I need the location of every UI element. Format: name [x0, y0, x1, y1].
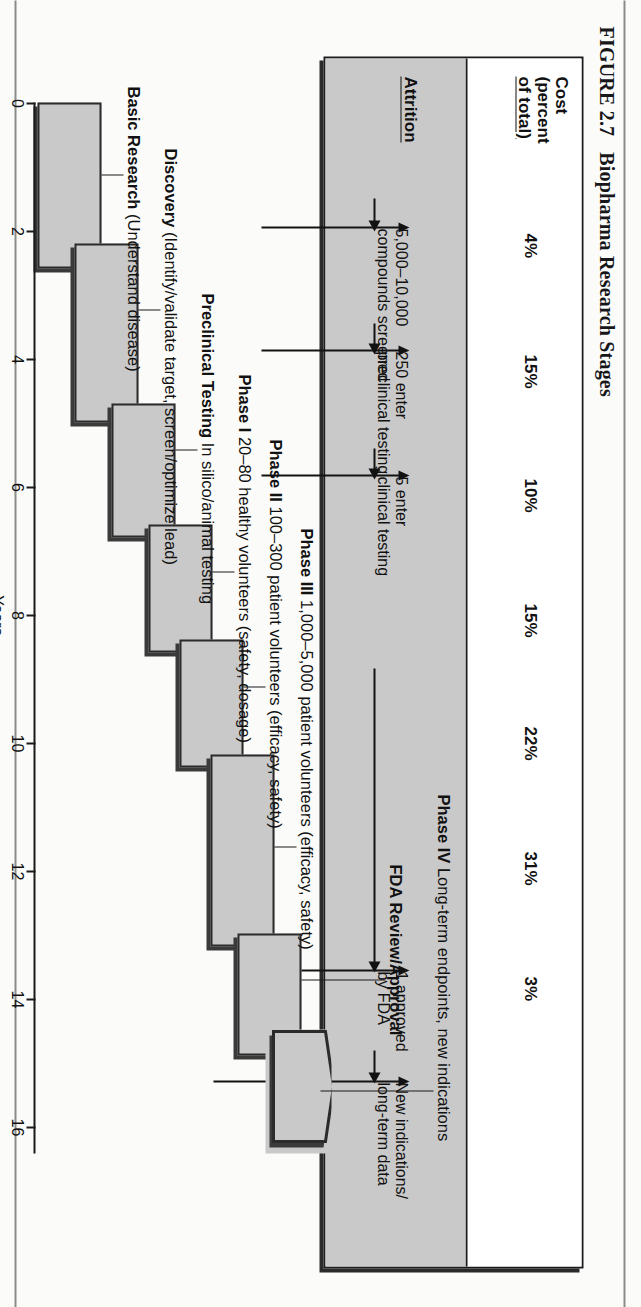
figure-page: FIGURE 2.7Biopharma Research Stages Cost… — [0, 0, 641, 1307]
x-tick-8 — [26, 614, 35, 616]
attrition-flow-arrow-2 — [373, 323, 375, 345]
stage-label-phase-i-rest: 20–80 healthy volunteers (safety, dosage… — [235, 432, 253, 743]
x-tick-6 — [26, 486, 35, 488]
x-tick-12 — [26, 870, 35, 872]
stage-label-phase-ii-bold: Phase II — [266, 439, 284, 501]
x-tick-label-16: 16 — [7, 1107, 25, 1147]
x-tick-0 — [26, 102, 35, 104]
leader-phase-iv — [320, 1090, 433, 1091]
x-tick-10 — [26, 742, 35, 744]
stage-label-discovery-rest: (Identify/validate target, screen/optimi… — [161, 227, 179, 565]
cost-column-header: Cost (percent of total) — [514, 76, 569, 143]
attrition-flow-arrow-4 — [373, 668, 375, 963]
leader-phase-iii — [274, 846, 296, 847]
stage-label-phase-i: Phase I 20–80 healthy volunteers (safety… — [236, 374, 253, 742]
figure-title-text: Biopharma Research Stages — [595, 152, 617, 397]
cost-header-line-3: of total) — [514, 76, 533, 138]
x-tick-14 — [26, 998, 35, 1000]
x-tick-4 — [26, 358, 35, 360]
attrition-cost-panel: Cost (percent of total) 4% 15% 10% 15% 2… — [323, 56, 583, 1268]
stage-label-phase-iv-bold: Phase IV — [434, 794, 452, 863]
stage-label-basic-research-bold: Basic Research — [124, 86, 142, 209]
attrition-note-1-line-1: 5,000–10,000 — [392, 228, 409, 326]
figure-number: FIGURE 2.7 — [595, 26, 617, 136]
x-tick-label-12: 12 — [7, 851, 25, 891]
stage-label-phase-iii: Phase III 1,000–5,000 patient volunteers… — [298, 528, 315, 949]
stage-label-preclinical-testing: Preclinical Testing In silico/animal tes… — [199, 293, 216, 604]
cost-value-phase-ii: 22% — [519, 726, 539, 760]
x-tick-2 — [26, 230, 35, 232]
stage-label-discovery: Discovery (Identify/validate target, scr… — [162, 148, 179, 564]
stage-label-basic-research: Basic Research (Understand disease) — [125, 86, 142, 371]
x-tick-label-2: 2 — [7, 211, 25, 251]
attrition-flow-arrow-1 — [373, 198, 375, 222]
x-tick-label-0: 0 — [7, 83, 25, 123]
figure-stage: FIGURE 2.7Biopharma Research Stages Cost… — [0, 0, 641, 1307]
timeline-chart: Basic Research (Understand disease) Disc… — [23, 56, 323, 1268]
attrition-note-2-line-2: preclinical testing — [374, 351, 391, 474]
stage-label-phase-ii-rest: 100–300 patient volunteers (efficacy, sa… — [266, 501, 284, 828]
x-tick-label-6: 6 — [7, 467, 25, 507]
attrition-note-5-line-1: New indications/ — [392, 1082, 409, 1199]
stage-label-basic-research-rest: (Understand disease) — [124, 209, 142, 371]
x-tick-label-8: 8 — [7, 595, 25, 635]
stage-label-phase-ii: Phase II 100–300 patient volunteers (eff… — [267, 439, 284, 828]
stage-label-preclinical-testing-bold: Preclinical Testing — [198, 293, 216, 438]
stage-label-phase-iv-rest: Long-term endpoints, new indications — [434, 863, 452, 1141]
stage-label-phase-i-bold: Phase I — [235, 374, 253, 432]
attrition-note-5: New indications/ long-term data — [373, 1082, 409, 1199]
cost-value-fda-review: 3% — [519, 976, 539, 1001]
attrition-note-3-line-1: 5 enter — [392, 476, 409, 526]
cost-value-phase-iii: 31% — [519, 851, 539, 885]
stage-label-discovery-bold: Discovery — [161, 148, 179, 227]
attrition-flow-arrow-3 — [373, 448, 375, 470]
cost-header-line-2: (percent — [533, 76, 552, 143]
attrition-note-5-line-2: long-term data — [374, 1082, 391, 1185]
attrition-note-2: 250 enter preclinical testing — [373, 351, 409, 474]
attrition-note-2-line-1: 250 enter — [392, 351, 409, 419]
stage-label-phase-iii-rest: 1,000–5,000 patient volunteers (efficacy… — [297, 595, 315, 949]
stage-label-preclinical-testing-rest: In silico/animal testing — [198, 438, 216, 604]
attrition-note-3: 5 enter clinical testing — [373, 476, 409, 576]
cost-header-line-1: Cost — [551, 76, 570, 114]
attrition-flow-arrow-5 — [373, 1050, 375, 1074]
leader-fda-review — [301, 979, 385, 980]
x-tick-label-10: 10 — [7, 723, 25, 763]
cost-value-preclinical-testing: 10% — [519, 478, 539, 512]
page-rule-top — [624, 0, 626, 1307]
stage-label-phase-iv: Phase IV Long-term endpoints, new indica… — [435, 794, 452, 1141]
cost-value-discovery: 15% — [519, 354, 539, 388]
cost-value-phase-i: 15% — [519, 603, 539, 637]
bar-phase-ii — [179, 639, 243, 767]
cost-row: Cost (percent of total) 4% 15% 10% 15% 2… — [465, 58, 581, 1266]
attrition-note-3-line-2: clinical testing — [374, 476, 391, 576]
stage-label-phase-iii-bold: Phase III — [297, 528, 315, 595]
stage-label-fda-review: FDA Review/Approval — [387, 864, 404, 1035]
bar-phase-iii — [210, 754, 274, 946]
leader-basic-research — [101, 174, 123, 175]
x-tick-label-4: 4 — [7, 339, 25, 379]
attrition-column-header: Attrition — [399, 76, 419, 142]
stage-label-fda-review-bold: FDA Review/Approval — [386, 864, 404, 1035]
x-tick-label-14: 14 — [7, 979, 25, 1019]
x-tick-16 — [26, 1126, 35, 1128]
x-axis-title: Years — [0, 575, 5, 655]
cost-value-basic-research: 4% — [519, 233, 539, 258]
figure-title: FIGURE 2.7Biopharma Research Stages — [594, 26, 617, 396]
x-axis-line — [33, 102, 35, 1153]
